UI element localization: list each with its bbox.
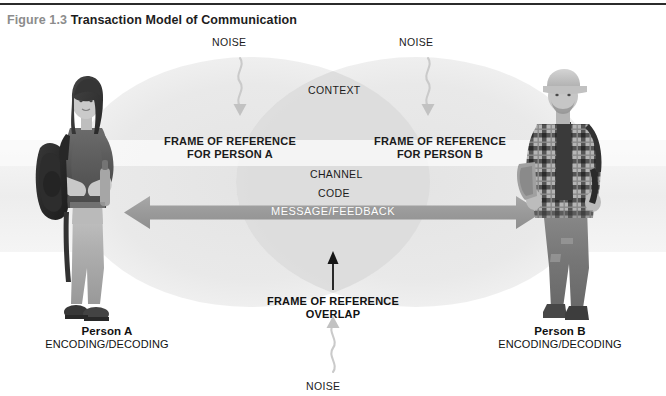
frame-b-line-1: FRAME OF REFERENCE <box>374 135 506 147</box>
person-a-role: ENCODING/DECODING <box>22 338 192 352</box>
noise-label-bottom: NOISE <box>306 380 340 392</box>
person-a-caption: Person A ENCODING/DECODING <box>22 324 192 352</box>
person-b-caption: Person B ENCODING/DECODING <box>470 324 650 352</box>
noise-label-top-right: NOISE <box>399 36 433 48</box>
noise-label-top-left: NOISE <box>212 36 246 48</box>
code-label: CODE <box>318 187 350 199</box>
figure-container: Figure 1.3 Transaction Model of Communic… <box>0 0 666 396</box>
frame-of-reference-b-label: FRAME OF REFERENCE FOR PERSON B <box>374 135 506 161</box>
noise-squiggle-arrow-bottom <box>327 316 340 372</box>
figure-title: Transaction Model of Communication <box>71 13 297 27</box>
person-a-photo <box>30 72 148 330</box>
context-label: CONTEXT <box>308 84 361 96</box>
top-divider <box>0 3 666 5</box>
person-a-name: Person A <box>22 324 192 338</box>
overlap-line-2: OVERLAP <box>306 308 361 320</box>
overlap-line-1: FRAME OF REFERENCE <box>267 295 399 307</box>
figure-caption: Figure 1.3 Transaction Model of Communic… <box>7 13 297 27</box>
person-b-photo <box>503 68 625 330</box>
frame-a-line-1: FRAME OF REFERENCE <box>164 135 296 147</box>
frame-of-reference-a-label: FRAME OF REFERENCE FOR PERSON A <box>164 135 296 161</box>
figure-number: Figure 1.3 <box>7 13 67 27</box>
channel-label: CHANNEL <box>310 168 363 180</box>
person-b-name: Person B <box>470 324 650 338</box>
frame-b-line-2: FOR PERSON B <box>397 148 483 160</box>
person-b-role: ENCODING/DECODING <box>470 338 650 352</box>
frame-a-line-2: FOR PERSON A <box>187 148 273 160</box>
transaction-model-diagram: NOISE NOISE NOISE CONTEXT FRAME OF REFER… <box>0 32 666 396</box>
